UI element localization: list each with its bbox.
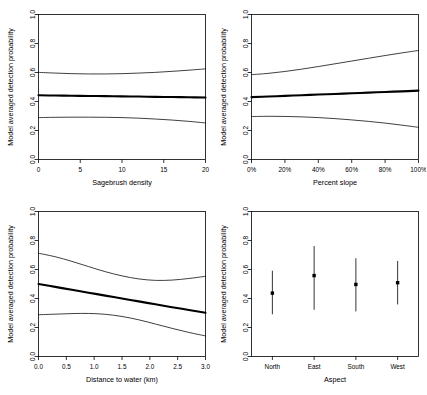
y-axis-title: Model averaged detection probability — [219, 225, 228, 343]
x-tick-label: 20 — [202, 166, 210, 173]
panel-sagebrush-svg: 0.00.20.40.60.81.005101520Sagebrush dens… — [0, 0, 213, 197]
y-tick-label: 0.0 — [29, 155, 36, 164]
confidence-limit-line — [39, 313, 206, 336]
y-tick-label: 0.2 — [29, 126, 36, 135]
multi-panel-figure: 0.00.20.40.60.81.005101520Sagebrush dens… — [0, 0, 427, 395]
y-tick-label: 0.6 — [242, 265, 249, 274]
confidence-limit-line — [252, 116, 419, 127]
x-tick-label: 1.0 — [90, 363, 99, 370]
x-tick-label: 100% — [410, 166, 426, 173]
y-tick-label: 0.8 — [29, 236, 36, 245]
confidence-limit-line — [39, 69, 206, 74]
panel-aspect-svg: 0.00.20.40.60.81.0NorthEastSouthWestAspe… — [213, 197, 426, 394]
x-axis-title: Distance to water (km) — [86, 375, 158, 384]
y-tick-label: 0.6 — [242, 68, 249, 77]
y-tick-label: 0.2 — [242, 323, 249, 332]
y-tick-label: 1.0 — [29, 10, 36, 19]
x-tick-label: 0% — [247, 166, 257, 173]
y-tick-label: 1.0 — [242, 10, 249, 19]
confidence-limit-line — [252, 50, 419, 74]
panel-water-svg: 0.00.20.40.60.81.00.00.51.01.52.02.53.0D… — [0, 197, 213, 394]
y-tick-label: 0.4 — [29, 294, 36, 303]
plot-box — [252, 212, 419, 357]
x-tick-label: 10 — [118, 166, 126, 173]
x-tick-label: 0.5 — [62, 363, 71, 370]
x-tick-label: 1.5 — [118, 363, 127, 370]
x-tick-label: 0 — [37, 166, 41, 173]
y-tick-label: 0.6 — [29, 68, 36, 77]
y-tick-label: 0.4 — [29, 97, 36, 106]
y-tick-label: 0.8 — [242, 39, 249, 48]
plot-area-water: 0.00.20.40.60.81.00.00.51.01.52.02.53.0D… — [6, 207, 210, 384]
estimate-marker — [271, 291, 274, 294]
y-tick-label: 0.0 — [242, 155, 249, 164]
x-tick-label: 80% — [379, 166, 392, 173]
y-axis-title: Model averaged detection probability — [6, 225, 15, 343]
panel-percent-slope: 0.00.20.40.60.81.00%20%40%60%80%100%Perc… — [213, 0, 426, 197]
x-tick-label: 20% — [279, 166, 292, 173]
x-tick-label: 60% — [345, 166, 358, 173]
plot-box — [39, 212, 206, 357]
plot-box — [252, 15, 419, 160]
panel-sagebrush-density: 0.00.20.40.60.81.005101520Sagebrush dens… — [0, 0, 213, 197]
confidence-limit-line — [39, 253, 206, 280]
x-tick-label: East — [308, 363, 321, 370]
estimate-marker — [312, 274, 315, 277]
panel-aspect: 0.00.20.40.60.81.0NorthEastSouthWestAspe… — [213, 197, 426, 394]
x-tick-label: 0.0 — [34, 363, 43, 370]
x-tick-label: 2.5 — [173, 363, 182, 370]
x-axis-title: Percent slope — [313, 178, 357, 187]
plot-area-slope: 0.00.20.40.60.81.00%20%40%60%80%100%Perc… — [219, 10, 426, 187]
x-tick-label: 3.0 — [201, 363, 210, 370]
x-axis-title: Sagebrush density — [92, 178, 152, 187]
y-tick-label: 0.0 — [29, 352, 36, 361]
y-axis-title: Model averaged detection probability — [219, 28, 228, 146]
x-tick-label: 2.0 — [145, 363, 154, 370]
y-tick-label: 1.0 — [29, 207, 36, 216]
x-tick-label: West — [390, 363, 405, 370]
x-tick-label: North — [265, 363, 281, 370]
y-tick-label: 0.2 — [242, 126, 249, 135]
y-tick-label: 0.4 — [242, 97, 249, 106]
y-axis-title: Model averaged detection probability — [6, 28, 15, 146]
y-tick-label: 0.2 — [29, 323, 36, 332]
y-tick-label: 0.0 — [242, 352, 249, 361]
mean-estimate-line — [252, 91, 419, 98]
y-tick-label: 0.8 — [29, 39, 36, 48]
plot-box — [39, 15, 206, 160]
x-tick-label: 40% — [312, 166, 325, 173]
mean-estimate-line — [39, 284, 206, 313]
y-tick-label: 0.4 — [242, 294, 249, 303]
y-tick-label: 0.6 — [29, 265, 36, 274]
panel-slope-svg: 0.00.20.40.60.81.00%20%40%60%80%100%Perc… — [213, 0, 426, 197]
x-tick-label: 15 — [160, 166, 168, 173]
y-tick-label: 0.8 — [242, 236, 249, 245]
plot-area-sagebrush: 0.00.20.40.60.81.005101520Sagebrush dens… — [6, 10, 209, 187]
x-tick-label: South — [348, 363, 365, 370]
panel-distance-to-water: 0.00.20.40.60.81.00.00.51.01.52.02.53.0D… — [0, 197, 213, 394]
estimate-marker — [354, 283, 357, 286]
plot-area-aspect: 0.00.20.40.60.81.0NorthEastSouthWestAspe… — [219, 207, 419, 384]
y-tick-label: 1.0 — [242, 207, 249, 216]
estimate-marker — [396, 281, 399, 284]
confidence-limit-line — [39, 117, 206, 123]
x-axis-title: Aspect — [324, 375, 346, 384]
x-tick-label: 5 — [78, 166, 82, 173]
mean-estimate-line — [39, 95, 206, 97]
